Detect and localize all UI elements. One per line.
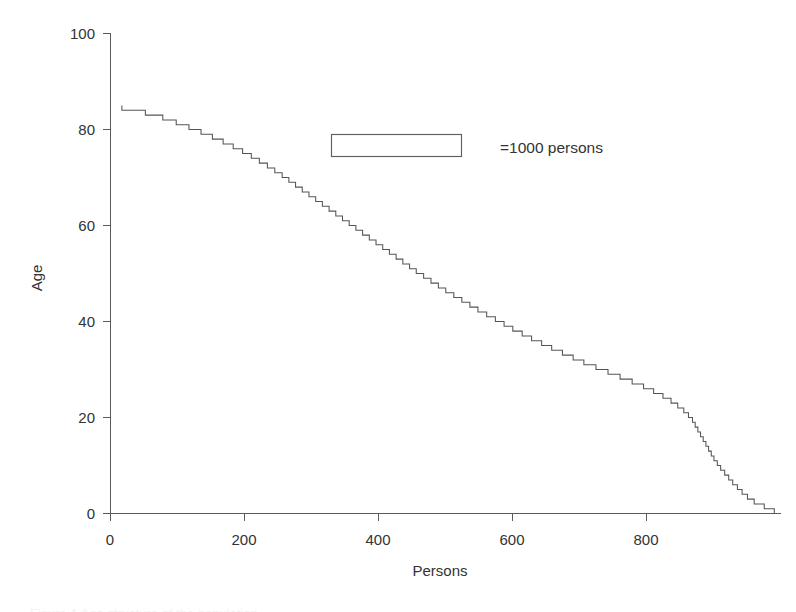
age-persons-step-chart: 100 80 60 40 20 0 0 200 400 600 800 Pers… xyxy=(0,0,796,612)
y-tick-label-60: 60 xyxy=(78,217,95,234)
y-axis-ticks xyxy=(103,34,111,514)
legend: =1000 persons xyxy=(332,135,604,157)
y-axis-tick-labels: 100 80 60 40 20 0 xyxy=(70,25,95,522)
x-axis-ticks xyxy=(111,514,647,522)
x-tick-label-200: 200 xyxy=(231,531,256,548)
y-tick-label-40: 40 xyxy=(78,313,95,330)
page-caption-sliver: Figure 1 Age structure of the population xyxy=(30,607,550,612)
figure-container: 100 80 60 40 20 0 0 200 400 600 800 Pers… xyxy=(0,0,796,612)
x-axis-tick-labels: 0 200 400 600 800 xyxy=(106,531,659,548)
y-tick-label-100: 100 xyxy=(70,25,95,42)
y-tick-label-0: 0 xyxy=(87,505,95,522)
x-axis-title: Persons xyxy=(412,562,467,579)
y-axis-title: Age xyxy=(28,265,45,292)
population-step-curve xyxy=(122,106,774,514)
x-tick-label-400: 400 xyxy=(365,531,390,548)
x-tick-label-0: 0 xyxy=(106,531,114,548)
legend-label: =1000 persons xyxy=(500,139,603,156)
x-tick-label-600: 600 xyxy=(499,531,524,548)
y-tick-label-20: 20 xyxy=(78,409,95,426)
y-tick-label-80: 80 xyxy=(78,121,95,138)
legend-swatch-icon xyxy=(332,135,462,157)
axes-group xyxy=(111,33,782,514)
x-tick-label-800: 800 xyxy=(633,531,658,548)
